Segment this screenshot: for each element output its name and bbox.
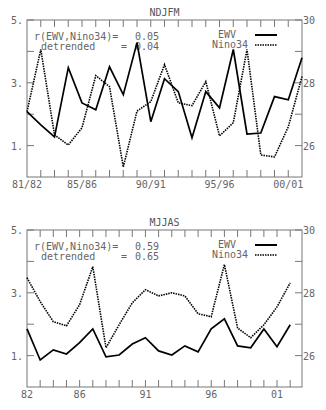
series-nino34: [27, 265, 290, 348]
chart-panel-ndjfm: NDJFM81/8285/8690/9195/9600/015.3.1.3028…: [11, 7, 315, 190]
y-tick-label-left: 1.: [11, 141, 23, 152]
x-tick-label: 86: [74, 389, 86, 400]
detrended-label: detrended: [41, 41, 95, 52]
chart-title: NDJFM: [149, 7, 179, 18]
x-tick-label: 91: [139, 389, 151, 400]
y-tick-label-right: 26: [303, 351, 315, 362]
y-tick-label-left: 5.: [11, 15, 23, 26]
y-tick-label-right: 30: [303, 15, 315, 26]
chart-title: MJJAS: [149, 217, 179, 228]
x-tick-label: 95/96: [204, 179, 234, 190]
y-tick-label-right: 28: [303, 78, 315, 89]
y-tick-label-left: 3.: [11, 288, 23, 299]
detrended-equals: =: [121, 41, 127, 52]
x-tick-label: 96: [205, 389, 217, 400]
y-tick-label-right: 28: [303, 288, 315, 299]
x-tick-label: 90/91: [136, 179, 166, 190]
x-tick-label: 01: [271, 389, 283, 400]
series-ewv: [27, 43, 302, 138]
x-tick-label: 85/86: [67, 179, 97, 190]
y-tick-label-left: 3.: [11, 78, 23, 89]
chart-canvas: NDJFM81/8285/8690/9195/9600/015.3.1.3028…: [0, 0, 326, 410]
x-tick-label: 81/82: [12, 179, 42, 190]
chart-panel-mjjas: MJJAS82869196015.3.1.302826r(EWV,Nino34)…: [11, 217, 315, 400]
detrended-value: 0.65: [135, 251, 159, 262]
x-tick-label: 82: [21, 389, 33, 400]
y-tick-label-right: 26: [303, 141, 315, 152]
x-tick-label: 00/01: [273, 179, 303, 190]
y-tick-label-left: 1.: [11, 351, 23, 362]
legend-label-nino34: Nino34: [212, 249, 248, 260]
detrended-equals: =: [121, 251, 127, 262]
legend-label-nino34: Nino34: [212, 39, 248, 50]
detrended-label: detrended: [41, 251, 95, 262]
y-tick-label-left: 5.: [11, 225, 23, 236]
y-tick-label-right: 30: [303, 225, 315, 236]
